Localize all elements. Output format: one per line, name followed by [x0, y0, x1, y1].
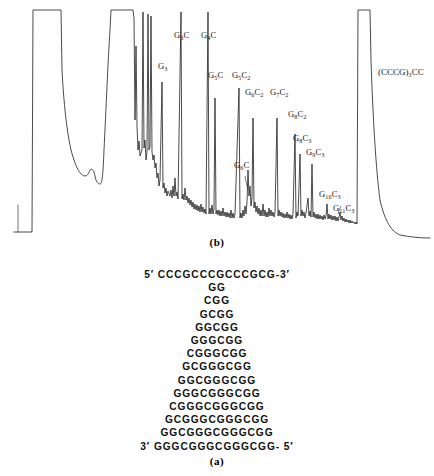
peak-label-g6c2: G6C2 [245, 88, 263, 97]
absorbance-trace-path [14, 10, 430, 238]
peak-label-g5c2: G5C2 [232, 71, 250, 80]
peak-label-g8c2: G8C2 [288, 110, 306, 119]
ladder-row: GGCGGGCGGGCGG [0, 426, 434, 439]
panel-b-caption: (b) [0, 236, 434, 248]
peak-label-g5c: G5C [208, 71, 223, 80]
ladder-row: CGGGCGG [0, 347, 434, 360]
ladder-row: GCGGGCGG [0, 360, 434, 373]
peak-label-main-product: (CCCG)₃CC [378, 68, 424, 77]
peak-label-g3: G3 [158, 62, 167, 71]
chromatogram-trace [0, 0, 434, 240]
peak-label-g3c: G3C [174, 31, 189, 40]
panel-a-caption: (a) [0, 455, 434, 467]
ladder-row: GGGCGG [0, 334, 434, 347]
ladder-row: CGGGCGGGCGG [0, 400, 434, 413]
ladder-row-top-strand: 5′ CCCGCCCGCCCGCG-3′ [0, 268, 434, 281]
peak-label-g7c2: G7C2 [270, 88, 288, 97]
panel-b-chromatogram: G3 G3C G4C G5C G5C2 G6C2 G7C2 G8C2 G6C G… [0, 0, 434, 252]
peak-label-g8c3: G8C3 [293, 134, 311, 143]
peak-label-g11c3: G11C3 [333, 204, 354, 213]
peak-label-g9c3: G9C3 [306, 148, 324, 157]
ladder-row: CGG [0, 294, 434, 307]
peak-label-g6c: G6C [234, 161, 249, 170]
peak-label-g10c3: G10C3 [319, 190, 341, 199]
ladder-row-bottom-strand: 3′ GGGCGGGCGGGCGG- 5′ [0, 440, 434, 453]
ladder-row: GCGGGCGGGCGG [0, 413, 434, 426]
ladder-row: GG [0, 281, 434, 294]
sequence-ladder-list: 5′ CCCGCCCGCCCGCG-3′ GG CGG GCGG GGCGG G… [0, 268, 434, 453]
panel-a-sequence-ladder: 5′ CCCGCCCGCCCGCG-3′ GG CGG GCGG GGCGG G… [0, 268, 434, 476]
ladder-row: GCGG [0, 308, 434, 321]
ladder-row: GGCGGGCGG [0, 374, 434, 387]
peak-label-g4c: G4C [201, 31, 216, 40]
ladder-row: GGGCGGGCGG [0, 387, 434, 400]
ladder-row: GGCGG [0, 321, 434, 334]
figure-root: G3 G3C G4C G5C G5C2 G6C2 G7C2 G8C2 G6C G… [0, 0, 434, 476]
